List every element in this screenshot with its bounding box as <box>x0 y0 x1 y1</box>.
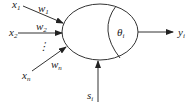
weight-label-w2: w2 <box>36 20 47 34</box>
diagram-svg: x1 w1 x2 w2 ⋮ xn wn θi yi si <box>0 0 196 109</box>
weight-label-wn: wn <box>51 58 62 72</box>
neuron-body <box>62 4 138 60</box>
neuron-diagram: x1 w1 x2 w2 ⋮ xn wn θi yi si <box>0 0 196 109</box>
ellipsis-dots: ⋮ <box>38 40 49 52</box>
output-label: yi <box>177 26 185 40</box>
input-label-x2: x2 <box>8 26 18 40</box>
input-label-xn: xn <box>21 69 31 83</box>
weight-label-w1: w1 <box>38 2 49 16</box>
external-input-label: si <box>87 89 93 103</box>
threshold-label: θi <box>117 26 124 40</box>
input-label-x1: x1 <box>11 0 20 12</box>
